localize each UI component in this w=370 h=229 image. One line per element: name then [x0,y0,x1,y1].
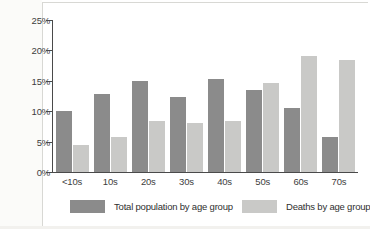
bar [339,60,355,172]
x-axis-line [52,172,358,173]
bar [170,97,186,172]
y-axis-tick-mark [46,111,52,112]
bar [94,94,110,172]
x-axis-tick-label: <10s [62,176,82,187]
bar [246,90,262,172]
bar-group [246,20,279,172]
bar [187,123,203,172]
y-axis-tick-mark [46,142,52,143]
bar-chart-figure: 0%5%10%15%20%25% <10s10s20s30s40s50s60s7… [0,0,370,229]
bar [301,56,317,172]
x-axis-tick-label: 20s [141,176,156,187]
bar [284,108,300,172]
y-axis-labels: 0%5%10%15%20%25% [18,14,50,174]
legend-swatch-total-population [70,200,105,213]
legend-item-deaths: Deaths by age group [242,199,370,213]
x-axis-tick-label: 50s [255,176,270,187]
bar [111,137,127,172]
legend-label-total-population: Total population by age group [114,201,233,212]
chart-legend: Total population by age group Deaths by … [53,199,365,215]
bar [149,121,165,172]
bar-group [94,20,127,172]
bar [73,145,89,172]
legend-label-deaths: Deaths by age group [286,201,370,212]
bar [225,121,241,172]
x-axis-tick-label: 10s [103,176,118,187]
bars-layer [53,20,358,172]
bar [322,137,338,172]
x-axis-labels: <10s10s20s30s40s50s60s70s [53,176,358,192]
bar-group [322,20,355,172]
bar [56,111,72,172]
plot-area: 0%5%10%15%20%25% <10s10s20s30s40s50s60s7… [0,0,370,229]
bar-group [56,20,89,172]
x-axis-tick-label: 40s [217,176,232,187]
y-axis-tick-mark [46,81,52,82]
bar-group [208,20,241,172]
legend-swatch-deaths [242,200,277,213]
bar [263,83,279,172]
y-axis-tick-mark [46,50,52,51]
bar-group [132,20,165,172]
x-axis-tick-label: 30s [179,176,194,187]
bar [208,79,224,172]
legend-item-total-population: Total population by age group [70,199,233,213]
y-axis-tick-mark [46,20,52,21]
bar [132,81,148,172]
x-axis-tick-label: 60s [293,176,308,187]
bar-group [170,20,203,172]
bar-group [284,20,317,172]
x-axis-tick-label: 70s [332,176,347,187]
y-axis-tick-mark [46,172,52,173]
